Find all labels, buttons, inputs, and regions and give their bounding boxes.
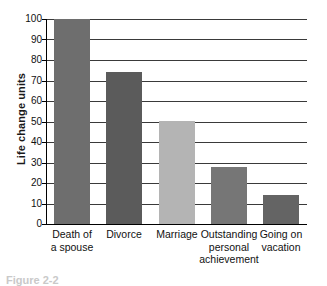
y-tick-label: 20 [16,178,42,188]
bars-group [46,19,307,224]
y-tick-label: 90 [16,35,42,45]
x-category-label-line: Going on [250,228,312,241]
y-tick-label: 70 [16,76,42,86]
bar [159,121,195,224]
y-tick-label: 10 [16,199,42,209]
y-tick-label: 50 [16,117,42,127]
plot-area [46,19,307,224]
y-axis-tick-labels: 1009080706050403020100 [14,0,42,284]
x-category-label-line: vacation [250,241,312,254]
bar [54,19,90,224]
y-tick-label: 60 [16,96,42,106]
bar [211,167,247,224]
y-tick-label: 30 [16,158,42,168]
bar [106,72,142,224]
bar [263,195,299,224]
x-category-label-line: Divorce [94,228,154,241]
y-axis-line [46,19,47,225]
x-category-label-line: achievement [190,253,268,266]
x-category-label-line: a spouse [39,241,105,254]
y-tick-label: 100 [16,14,42,24]
y-tick-label: 80 [16,55,42,65]
y-tick-label: 40 [16,137,42,147]
figure-caption: Figure 2-2 [6,275,59,286]
x-axis-category-labels: Death ofa spouseDivorceMarriageOutstandi… [40,228,327,278]
x-axis-line [46,224,307,225]
x-category-label: Divorce [94,228,154,241]
x-category-label: Going onvacation [250,228,312,253]
